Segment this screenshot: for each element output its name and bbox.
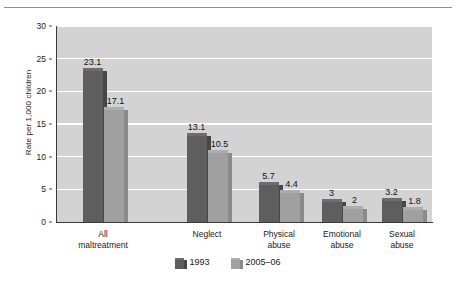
bar-side-shadow [363, 209, 367, 222]
legend-swatch-side [240, 260, 243, 269]
y-tick-label: 20 [37, 86, 46, 96]
plot-inner: 23.113.15.733.217.110.54.421.8 [57, 26, 432, 222]
bar [104, 110, 124, 222]
bar-face [208, 153, 228, 222]
y-tick-mark [49, 26, 52, 27]
x-category-label: Allmaltreatment [58, 229, 148, 250]
bar-value-label: 1.8 [398, 196, 432, 206]
legend-swatch-side [184, 260, 187, 269]
x-axis-line [56, 222, 433, 223]
bar [208, 153, 228, 222]
legend-swatch-face [175, 260, 184, 269]
legend-label: 2005–06 [245, 257, 280, 267]
x-category-label-line: All [58, 229, 148, 240]
y-tick-label: 15 [37, 119, 46, 129]
bar-face [322, 202, 342, 222]
bar-face [403, 210, 423, 222]
y-axis-tick-labels: 051015202530 [0, 26, 52, 222]
y-tick-mark [49, 156, 52, 157]
legend-swatch-icon [175, 258, 184, 267]
top-divider-rule [4, 7, 452, 8]
bar [322, 202, 342, 222]
legend-item[interactable]: 1993 [175, 257, 209, 267]
x-category-label: Sexualabuse [357, 229, 447, 250]
bar-value-label: 23.1 [76, 57, 110, 67]
bar-face [259, 185, 279, 222]
bar-face [83, 71, 103, 222]
bar-side-shadow [423, 210, 427, 222]
chart-legend: 19932005–06 [0, 257, 456, 267]
x-category-label-line: Sexual [357, 229, 447, 240]
x-category-label-line: abuse [357, 240, 447, 251]
bar [259, 185, 279, 222]
gridline [57, 25, 432, 27]
y-tick-mark [49, 58, 52, 59]
bar [343, 209, 363, 222]
legend-item[interactable]: 2005–06 [231, 257, 280, 267]
y-tick-mark [49, 222, 52, 223]
bar [280, 193, 300, 222]
plot-area: 23.113.15.733.217.110.54.421.8 [57, 26, 432, 222]
y-tick-label: 0 [41, 217, 46, 227]
bar-value-label: 13.1 [180, 122, 214, 132]
bar-value-label: 4.4 [275, 179, 309, 189]
legend-swatch-face [231, 260, 240, 269]
bar-value-label: 17.1 [99, 96, 133, 106]
y-tick-label: 25 [37, 54, 46, 64]
bar-side-shadow [124, 110, 128, 222]
gridline [57, 91, 432, 93]
bar-face [280, 193, 300, 222]
bar-side-shadow [228, 153, 232, 222]
bar-value-label: 10.5 [203, 139, 237, 149]
y-tick-mark [49, 189, 52, 190]
bar-face [343, 209, 363, 222]
y-tick-mark [49, 91, 52, 92]
bar-side-shadow [300, 193, 304, 222]
bar [83, 71, 103, 222]
bar-value-label: 2 [338, 195, 372, 205]
bar-face [104, 110, 124, 222]
x-category-label-line: maltreatment [58, 240, 148, 251]
chart-figure: Rate per 1,000 children 051015202530 23.… [0, 0, 456, 291]
gridline [57, 58, 432, 60]
y-tick-mark [49, 124, 52, 125]
bar [403, 210, 423, 222]
legend-label: 1993 [189, 257, 209, 267]
legend-swatch-icon [231, 258, 240, 267]
y-tick-label: 30 [37, 21, 46, 31]
y-tick-label: 10 [37, 152, 46, 162]
y-tick-label: 5 [41, 184, 46, 194]
